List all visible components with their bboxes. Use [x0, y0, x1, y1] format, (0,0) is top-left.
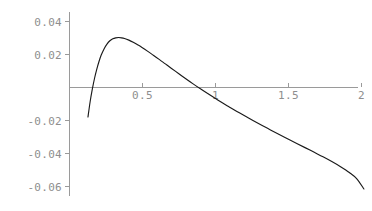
- y-tick-marks: [65, 22, 69, 187]
- data-curve-line: [88, 38, 364, 189]
- x-tick-labels: 0.511.52: [132, 89, 365, 102]
- y-tick-label--0.02: -0.02: [27, 115, 62, 128]
- y-tick-label-0.04: 0.04: [34, 16, 62, 29]
- plot-figure: 0.511.52 0.040.02-0.02-0.04-0.06: [0, 0, 372, 211]
- y-tick-label-0.02: 0.02: [34, 49, 62, 62]
- y-tick-label--0.04: -0.04: [27, 148, 62, 161]
- x-tick-label-1.5: 1.5: [278, 89, 299, 102]
- x-tick-label-0.5: 0.5: [132, 89, 153, 102]
- plot-canvas: 0.511.52 0.040.02-0.02-0.04-0.06: [0, 0, 372, 211]
- x-tick-label-2: 2: [358, 89, 365, 102]
- y-tick-labels: 0.040.02-0.02-0.04-0.06: [27, 16, 62, 194]
- x-tick-marks: [143, 83, 362, 87]
- y-tick-label--0.06: -0.06: [27, 181, 62, 194]
